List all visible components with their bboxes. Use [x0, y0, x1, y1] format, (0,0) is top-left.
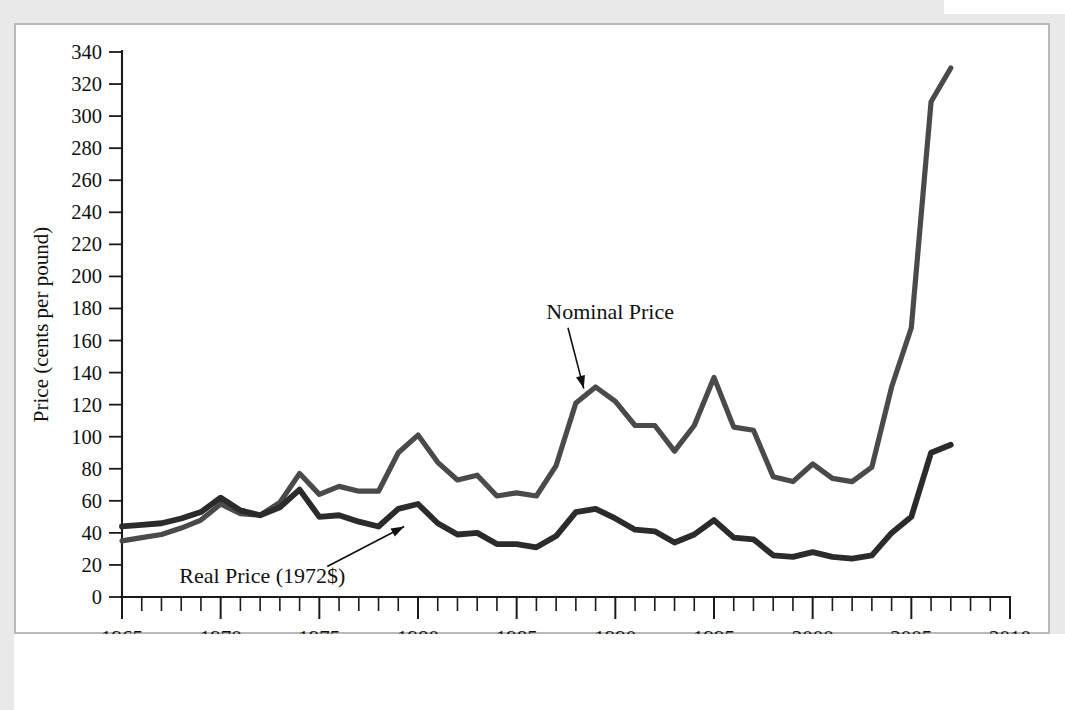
- y-axis-tick-label: 80: [82, 458, 103, 480]
- y-axis-tick-label: 0: [92, 586, 102, 608]
- y-axis-tick-label: 220: [71, 233, 102, 255]
- y-axis-tick-label: 240: [71, 201, 102, 223]
- y-axis-tick-label: 340: [71, 41, 102, 63]
- y-axis-tick-label: 320: [71, 73, 102, 95]
- annotation-label: Real Price (1972$): [179, 563, 345, 588]
- y-axis-tick-label: 160: [71, 330, 102, 352]
- y-axis-tick-label: 180: [71, 297, 102, 319]
- y-axis-tick-label: 20: [82, 554, 103, 576]
- annotation-arrow-head: [391, 526, 405, 536]
- series-line-nominal-price: [122, 68, 951, 541]
- y-axis-title: Price (cents per pound): [29, 227, 53, 422]
- page-background: 0204060801001201401601802002202402602803…: [0, 0, 1065, 710]
- y-axis-tick-label: 260: [71, 169, 102, 191]
- annotation-arrow-head: [576, 375, 585, 389]
- y-axis-tick-label: 120: [71, 394, 102, 416]
- y-axis-tick-label: 140: [71, 362, 102, 384]
- y-axis-tick-label: 200: [71, 265, 102, 287]
- series-line-real-price-1972: [122, 445, 951, 559]
- annotation-arrow-line: [327, 526, 404, 566]
- y-axis-tick-label: 300: [71, 105, 102, 127]
- annotation-label: Nominal Price: [546, 299, 674, 324]
- y-axis-tick-label: 60: [82, 490, 103, 512]
- y-axis-tick-label: 100: [71, 426, 102, 448]
- y-axis-tick-label: 280: [71, 137, 102, 159]
- y-axis-tick-label: 40: [82, 522, 103, 544]
- copper-prices-chart: 0204060801001201401601802002202402602803…: [0, 0, 1065, 710]
- figure-caption-band: FIGURE 2.20Copper Prices, 1965–2007: [14, 634, 1065, 710]
